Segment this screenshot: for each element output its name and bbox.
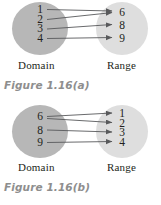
range-element-a-2: 9 [119, 32, 125, 44]
range-element-b-3: 4 [119, 136, 125, 148]
figure-caption-b: Figure 1.16(b) [4, 181, 90, 193]
domain-label-a: Domain [18, 59, 55, 71]
range-element-a-0: 6 [119, 6, 125, 18]
domain-label-b: Domain [18, 161, 55, 173]
domain-element-b-2: 9 [37, 136, 43, 148]
range-label-b: Range [107, 161, 136, 173]
figure-1-16-a: 1 2 3 4 6 8 9 Domain Range Figure 1.16(a… [0, 0, 161, 103]
figure-1-16-b: 6 8 9 1 2 3 4 Domain Range Figure 1.16(b… [0, 102, 161, 205]
range-element-a-1: 8 [119, 19, 125, 31]
domain-element-a-3: 4 [37, 32, 43, 44]
range-label-a: Range [107, 59, 136, 71]
domain-element-b-0: 6 [37, 110, 43, 122]
domain-element-b-1: 8 [37, 124, 43, 136]
figure-caption-a: Figure 1.16(a) [4, 79, 90, 91]
